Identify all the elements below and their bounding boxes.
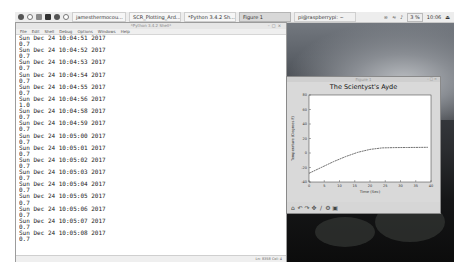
back-icon[interactable]: ↶	[297, 205, 303, 211]
y-tick-label: 40	[303, 122, 307, 126]
save-icon[interactable]: ▣	[332, 205, 338, 211]
y-tick-label: 0	[305, 151, 307, 155]
y-tick-label: 20	[303, 137, 307, 141]
x-tick-label: 25	[383, 184, 387, 188]
shell-output[interactable]: Sun Dec 24 10:04:51 20170.7Sun Dec 24 10…	[19, 35, 284, 254]
window-controls: –□×	[268, 23, 283, 29]
menu-help[interactable]: Help	[121, 29, 130, 34]
menu-file[interactable]: File	[20, 29, 27, 34]
cursor-position: Ln: 8358 Col: 4	[255, 257, 282, 261]
task-label: SCR_Plotting_Ard...	[133, 14, 181, 20]
y-tick-label: 80	[303, 93, 307, 97]
menu-options[interactable]: Options	[77, 29, 92, 34]
task-label: pi@raspberrypi: ~	[298, 14, 344, 20]
task-label: Figure 1	[243, 14, 263, 20]
wolfram-icon[interactable]	[63, 14, 69, 20]
cpu-usage: 3 %	[407, 13, 423, 22]
y-tick-label: 60	[303, 108, 307, 112]
x-tick-label: 0	[308, 184, 310, 188]
x-tick-label: 10	[337, 184, 341, 188]
zoom-icon[interactable]: ∕	[318, 205, 324, 211]
raspberry-menu-icon[interactable]	[18, 14, 24, 20]
figure-window: Figure 1 –□× The Scientyst's Ayde 051015…	[286, 76, 441, 214]
x-tick-label: 15	[353, 184, 357, 188]
task-label: jamesthermocou...	[76, 14, 123, 20]
x-tick-label: 5	[323, 184, 325, 188]
x-axis-label: Time (Sec)	[359, 189, 381, 194]
forward-icon[interactable]: ↷	[304, 205, 310, 211]
desktop: jamesthermocou... SCR_Plotting_Ard... *P…	[15, 12, 454, 262]
menu-edit[interactable]: Edit	[32, 29, 40, 34]
shell-titlebar[interactable]: *Python 3.4.2 Shell* –□×	[16, 23, 286, 29]
browser-icon[interactable]	[27, 14, 33, 20]
menu-shell[interactable]: Shell	[44, 29, 54, 34]
close-button[interactable]: ×	[434, 77, 438, 81]
python-shell-window: *Python 3.4.2 Shell* –□× File Edit Shell…	[15, 22, 287, 262]
file-manager-icon[interactable]	[36, 14, 42, 20]
x-tick-label: 35	[414, 184, 418, 188]
close-button[interactable]: ×	[278, 23, 283, 28]
task-terminal[interactable]: pi@raspberrypi: ~	[294, 12, 356, 22]
mathematica-icon[interactable]	[54, 14, 60, 20]
task-python-shell[interactable]: *Python 3.4.2 Sh...	[184, 12, 236, 22]
volume-icon[interactable]: ♪	[400, 14, 403, 20]
line-chart: 0510152025303540806040200-20-40Time (Sec…	[287, 82, 440, 202]
figure-canvas[interactable]: The Scientyst's Ayde 0510152025303540806…	[287, 82, 440, 202]
configure-icon[interactable]: ⚙	[325, 205, 331, 211]
window-title: *Python 3.4.2 Shell*	[131, 23, 171, 28]
terminal-icon[interactable]	[45, 14, 51, 20]
task-label: *Python 3.4.2 Sh...	[188, 14, 235, 20]
plot-area	[309, 95, 431, 182]
figure-toolbar: ⌂ ↶ ↷ ✥ ∕ ⚙ ▣	[287, 202, 440, 213]
y-tick-label: -40	[301, 180, 307, 184]
system-tray: ∞ ≈ ♪ 3 % 10:06 ⏏	[384, 13, 454, 22]
clock[interactable]: 10:06	[427, 14, 441, 20]
menu-debug[interactable]: Debug	[59, 29, 72, 34]
wallpaper-foliage	[315, 217, 375, 247]
x-tick-label: 20	[368, 184, 372, 188]
shell-line: 0.7	[19, 236, 284, 242]
task-thermocouple[interactable]: jamesthermocou...	[72, 12, 126, 22]
y-axis-label: Temperature (Degrees F)	[291, 115, 295, 161]
task-scr-plotting[interactable]: SCR_Plotting_Ard...	[129, 12, 181, 22]
home-icon[interactable]: ⌂	[290, 205, 296, 211]
x-tick-label: 30	[398, 184, 402, 188]
wifi-icon[interactable]: ≈	[392, 14, 396, 20]
task-figure-1[interactable]: Figure 1	[239, 12, 291, 22]
bluetooth-icon[interactable]: ∞	[384, 14, 388, 20]
y-tick-label: -20	[301, 166, 307, 170]
menu-windows[interactable]: Windows	[98, 29, 116, 34]
shell-statusbar: Ln: 8358 Col: 4	[16, 255, 286, 262]
eject-icon[interactable]: ⏏	[445, 14, 450, 20]
pan-icon[interactable]: ✥	[311, 205, 317, 211]
x-tick-label: 40	[429, 184, 433, 188]
